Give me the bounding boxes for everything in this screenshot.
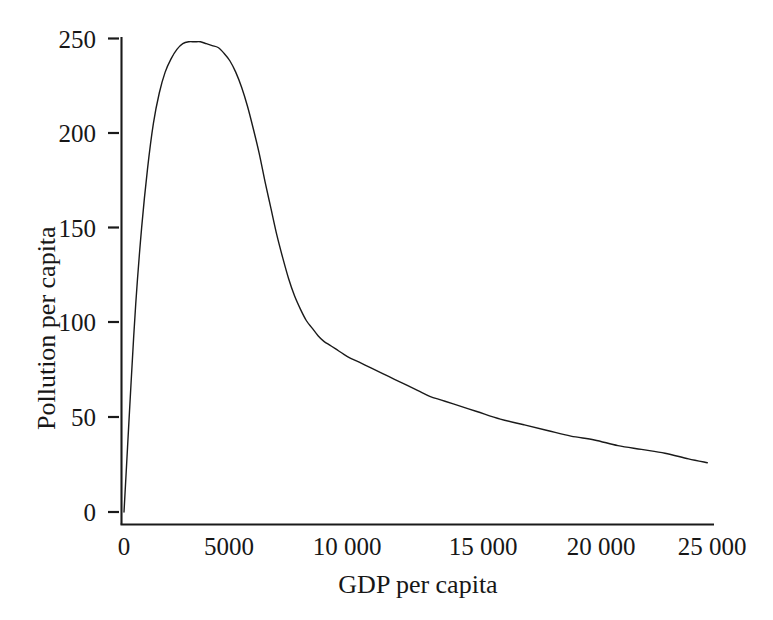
x-tick-label-20000: 20 000 bbox=[567, 534, 636, 559]
x-tick-label-0: 0 bbox=[118, 534, 131, 559]
x-tick-label-25000: 25 000 bbox=[678, 534, 747, 559]
chart-figure: 250 200 150 100 50 0 0 5000 10 000 15 00… bbox=[0, 0, 773, 620]
y-axis-ticks bbox=[108, 39, 119, 513]
y-axis-title: Pollution per capita bbox=[34, 0, 60, 430]
plot-area bbox=[0, 0, 773, 620]
kuznets-curve bbox=[124, 42, 707, 512]
x-tick-label-15000: 15 000 bbox=[449, 534, 518, 559]
x-tick-label-5000: 5000 bbox=[204, 534, 254, 559]
x-axis-title: GDP per capita bbox=[121, 572, 715, 598]
y-tick-label-150: 150 bbox=[59, 216, 97, 241]
y-tick-label-0: 0 bbox=[84, 500, 97, 525]
y-tick-label-100: 100 bbox=[59, 310, 97, 335]
y-tick-label-250: 250 bbox=[59, 27, 97, 52]
y-tick-label-200: 200 bbox=[59, 121, 97, 146]
x-tick-label-10000: 10 000 bbox=[313, 534, 382, 559]
y-tick-label-50: 50 bbox=[71, 405, 96, 430]
